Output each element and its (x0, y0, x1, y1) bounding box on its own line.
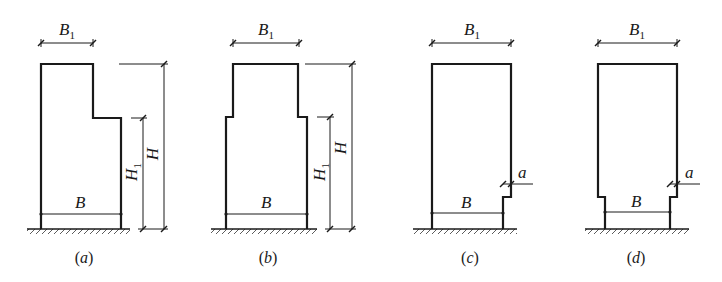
ground-line (585, 229, 689, 234)
label-b: B (75, 193, 86, 212)
caption-a: (a) (75, 249, 94, 267)
dimension-h1: H1 (122, 115, 168, 232)
dimension-b: B (603, 192, 671, 214)
label-h1: H1 (310, 163, 331, 182)
label-b: B (261, 193, 272, 212)
label-b1: B1 (629, 20, 645, 41)
dimension-b1: B1 (230, 20, 302, 47)
label-h1: H1 (122, 163, 143, 182)
ground-line (27, 229, 130, 234)
wall-section-outline (432, 64, 511, 229)
caption-c: (c) (461, 249, 479, 267)
ground-line (413, 229, 517, 234)
ground-line (211, 229, 317, 234)
dimension-b1: B1 (429, 20, 514, 47)
caption-d: (d) (627, 249, 646, 267)
label-h: H (331, 140, 350, 155)
label-a: a (685, 163, 694, 182)
label-h: H (143, 146, 162, 161)
dimension-h1: H1 (310, 114, 356, 232)
caption-b: (b) (259, 249, 278, 267)
label-a: a (518, 163, 527, 182)
dimension-a: a (667, 163, 700, 187)
panel-b: B1 B H H1 (b) (211, 20, 356, 267)
panel-d: B1 a B (d) (585, 20, 700, 267)
label-b1: B1 (258, 20, 274, 41)
label-b1: B1 (59, 20, 75, 41)
dimension-a: a (500, 163, 533, 187)
panel-a: B1 B H H1 (27, 20, 168, 267)
dimension-b: B (430, 193, 504, 215)
dimension-b: B (224, 193, 308, 216)
dimension-b: B (39, 193, 122, 216)
dimension-b1: B1 (38, 20, 96, 47)
panel-c: B1 a B (c) (413, 20, 533, 267)
label-b: B (461, 193, 472, 212)
label-b1: B1 (464, 20, 480, 41)
foundation-sections-diagram: B1 B H H1 (0, 0, 722, 282)
label-b: B (631, 192, 642, 211)
dimension-b1: B1 (595, 20, 680, 47)
